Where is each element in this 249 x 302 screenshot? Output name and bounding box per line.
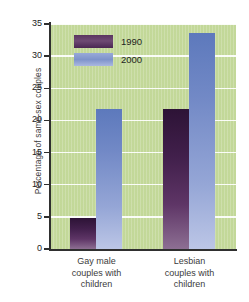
- y-tick-mark-10: [44, 184, 49, 186]
- category-1-line-1: couples with: [143, 268, 236, 280]
- category-1-line-0: Lesbian: [143, 256, 236, 268]
- y-tick-label-25: 25: [0, 82, 42, 92]
- category-1-line-2: children: [143, 279, 236, 291]
- y-tick-mark-30: [44, 55, 49, 57]
- legend-swatch-2000: [74, 53, 113, 66]
- y-tick-label-30: 30: [0, 50, 42, 60]
- y-tick-label-5: 5: [0, 211, 42, 221]
- y-tick-mark-5: [44, 216, 49, 218]
- legend-item-1990: 1990: [74, 34, 142, 49]
- legend-label-2000: 2000: [121, 54, 142, 65]
- category-0-line-1: couples with: [50, 268, 143, 280]
- y-tick-label-20: 20: [0, 114, 42, 124]
- category-0-line-2: children: [50, 279, 143, 291]
- y-tick-mark-25: [44, 88, 49, 90]
- bar-1990-group-0: [70, 218, 96, 250]
- x-axis-category-label-1: Lesbian couples with children: [143, 256, 236, 291]
- bar-2000-group-0: [96, 109, 122, 249]
- y-tick-label-10: 10: [0, 179, 42, 189]
- x-axis-line: [49, 249, 237, 251]
- category-0-line-0: Gay male: [50, 256, 143, 268]
- legend-label-1990: 1990: [121, 36, 142, 47]
- legend: 1990 2000: [74, 34, 142, 70]
- bar-chart: Percentage of same-sex couples 051015202…: [0, 0, 249, 302]
- x-axis-category-label-0: Gay male couples with children: [50, 256, 143, 291]
- gridline-35: [50, 24, 236, 25]
- y-tick-label-35: 35: [0, 18, 42, 28]
- y-tick-label-15: 15: [0, 147, 42, 157]
- y-tick-mark-0: [44, 248, 49, 250]
- y-axis-title: Percentage of same-sex couples: [33, 36, 43, 226]
- y-tick-mark-35: [44, 23, 49, 25]
- y-tick-label-0: 0: [0, 243, 42, 253]
- y-tick-mark-20: [44, 120, 49, 122]
- y-axis-line: [49, 22, 51, 251]
- legend-swatch-1990: [74, 35, 113, 48]
- legend-item-2000: 2000: [74, 52, 142, 67]
- y-tick-mark-15: [44, 152, 49, 154]
- bar-1990-group-1: [163, 109, 189, 249]
- bar-2000-group-1: [189, 33, 215, 249]
